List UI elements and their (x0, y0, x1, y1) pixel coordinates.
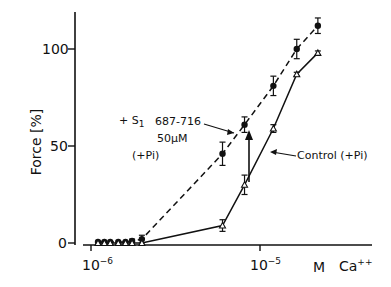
s1-range: 687-716 (155, 116, 201, 127)
control-data-point (242, 182, 248, 188)
s1-pi: (+Pi) (132, 150, 159, 161)
s1-concentration: 50µM (157, 133, 188, 144)
s1-data-point (315, 23, 321, 29)
difference-arrow (245, 130, 253, 182)
data-series (95, 18, 321, 246)
s1-data-point (241, 121, 247, 127)
s1-label: + S1 (119, 115, 144, 129)
x-tick-1e-6: 10−6 (82, 257, 113, 272)
x-axis-unit: M (313, 260, 325, 274)
control-line (98, 53, 318, 243)
control-data-point (270, 126, 276, 131)
x-axis-ion: Ca++ (339, 258, 372, 273)
y-axis-label: Force [%] (29, 102, 43, 182)
s1-data-point (294, 46, 300, 52)
y-tick-100: 100 (42, 42, 69, 56)
control-label: Control (+Pi) (297, 150, 368, 161)
control-data-point (220, 223, 226, 229)
s1-data-point (270, 83, 276, 89)
s1-line (98, 26, 318, 242)
x-tick-1e-5: 10−5 (250, 257, 281, 272)
y-tick-50: 50 (50, 139, 68, 153)
s1-data-point (219, 151, 225, 157)
y-tick-0: 0 (58, 236, 67, 250)
